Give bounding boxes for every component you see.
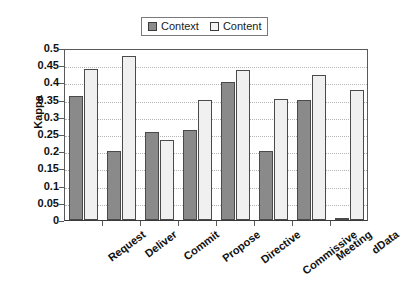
- x-tick-mark: [102, 221, 103, 226]
- x-tick-mark: [178, 221, 179, 226]
- bar-group: [107, 50, 136, 220]
- bar-group: [183, 50, 212, 220]
- y-tick-label: 0.35: [15, 95, 59, 106]
- bar-group: [69, 50, 98, 220]
- bar-group: [259, 50, 288, 220]
- bar-context-meeting: [297, 100, 311, 220]
- x-tick-label: Request: [106, 228, 148, 264]
- legend-label-content: Content: [223, 21, 262, 32]
- x-tick-label: Propose: [220, 228, 262, 264]
- y-tick-label: 0.25: [15, 129, 59, 140]
- bar-context-propose: [183, 130, 197, 220]
- y-tick-mark: [59, 221, 64, 222]
- y-tick-label: 0.3: [15, 112, 59, 123]
- bar-context-deliver: [107, 151, 121, 220]
- bar-content-commit: [160, 140, 174, 220]
- x-tick-mark: [254, 221, 255, 226]
- y-tick-label: 0.05: [15, 198, 59, 209]
- x-tick-mark: [140, 221, 141, 226]
- y-tick-label: 0.5: [15, 43, 59, 54]
- legend-swatch-context-icon: [148, 22, 157, 31]
- x-tick-mark: [330, 221, 331, 226]
- bar-content-propose: [198, 100, 212, 220]
- bar-content-deliver: [122, 56, 136, 220]
- x-tick-label: Commit: [182, 228, 222, 262]
- x-tick-mark: [216, 221, 217, 226]
- y-tick-label: 0.1: [15, 181, 59, 192]
- bar-group: [335, 50, 364, 220]
- bar-group: [297, 50, 326, 220]
- legend-item-context: Context: [148, 21, 199, 32]
- bar-context-commissive: [259, 151, 273, 220]
- x-tick-label: Deliver: [143, 228, 180, 260]
- x-tick-label: Directive: [259, 228, 303, 266]
- bar-context-ddata: [335, 218, 349, 220]
- y-tick-label: 0.45: [15, 60, 59, 71]
- y-tick-label: 0.4: [15, 77, 59, 88]
- y-tick-label: 0: [15, 215, 59, 226]
- plot-area: [64, 49, 368, 221]
- bar-content-ddata: [350, 90, 364, 220]
- y-tick-label: 0.15: [15, 163, 59, 174]
- legend-swatch-content-icon: [210, 22, 219, 31]
- legend-item-content: Content: [210, 21, 262, 32]
- y-tick-label: 0.2: [15, 146, 59, 157]
- legend-label-context: Context: [161, 21, 199, 32]
- bar-content-commissive: [274, 99, 288, 220]
- chart-legend: Context Content: [141, 17, 268, 36]
- x-tick-label: dData: [370, 228, 401, 256]
- x-tick-mark: [292, 221, 293, 226]
- bar-group: [221, 50, 250, 220]
- bar-content-meeting: [312, 75, 326, 220]
- bar-content-request: [84, 69, 98, 220]
- bar-content-directive: [236, 70, 250, 220]
- bar-context-commit: [145, 132, 159, 220]
- bar-group: [145, 50, 174, 220]
- bar-context-request: [69, 96, 83, 220]
- bar-context-directive: [221, 82, 235, 220]
